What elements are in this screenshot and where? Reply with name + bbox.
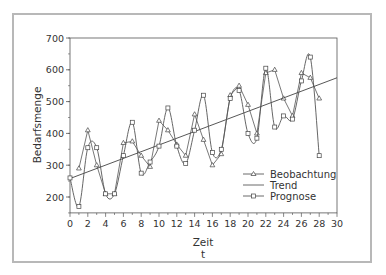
prognose-marker [228,96,232,100]
prognose-marker [95,146,99,150]
x-tick-label: 2 [85,218,91,229]
beobachtung-marker [85,128,90,132]
prognose-marker [246,131,250,135]
x-axis-subtitle: t [201,248,205,260]
prognose-marker [113,192,117,196]
beobachtung-marker [192,112,197,116]
prognose-marker [308,55,312,59]
y-tick-label: 600 [46,64,64,75]
beobachtung-marker [246,102,251,106]
prognose-marker [210,150,214,154]
legend-item-label: Beobachtung [270,169,336,180]
legend-item-label: Prognose [270,191,316,202]
prognose-marker [219,147,223,151]
prognose-marker [104,192,108,196]
square-marker-icon [252,194,256,198]
prognose-marker [148,160,152,164]
prognose-marker [121,154,125,158]
x-tick-label: 8 [138,218,144,229]
legend: BeobachtungTrendPrognose [243,169,336,202]
y-axis-title: Bedarfsmenge [31,87,43,164]
prognose-marker [273,125,277,129]
triangle-marker-icon [251,172,256,176]
x-tick-label: 14 [189,218,201,229]
x-tick-label: 6 [120,218,126,229]
prognose-marker [157,144,161,148]
prognose-marker [184,162,188,166]
prognose-marker [86,146,90,150]
prognose-marker [299,79,303,83]
prognose-marker [255,136,259,140]
x-tick-label: 28 [313,218,325,229]
x-tick-label: 16 [206,218,218,229]
prognose-marker [175,144,179,148]
chart-canvas: 2003004005006007000246810121416182022242… [0,0,386,275]
x-tick-label: 18 [224,218,236,229]
y-tick-label: 500 [46,96,64,107]
x-axis-title: Zeit [193,236,214,248]
prognose-marker [202,93,206,97]
prognose-marker [139,171,143,175]
x-tick-label: 4 [103,218,109,229]
y-tick-label: 700 [46,33,64,44]
prognose-marker [193,128,197,132]
beobachtung-marker [157,118,162,122]
x-tick-label: 0 [67,218,73,229]
beobachtung-marker [255,131,260,135]
beobachtung-marker [317,96,322,100]
beobachtung-marker [130,139,135,143]
y-tick-label: 400 [46,128,64,139]
prognose-marker [166,106,170,110]
prognose-marker [317,154,321,158]
x-tick-label: 20 [242,218,254,229]
beobachtung-marker [77,166,82,170]
x-tick-label: 10 [153,218,165,229]
beobachtung-marker [201,137,206,141]
y-tick-label: 300 [46,160,64,171]
x-tick-label: 12 [171,218,183,229]
x-tick-label: 26 [295,218,307,229]
prognose-marker [282,114,286,118]
legend-item-label: Trend [269,180,297,191]
x-tick-label: 30 [331,218,343,229]
trend-line [70,78,337,179]
prognose-marker [130,120,134,124]
prognose-marker [291,117,295,121]
x-tick-label: 24 [278,218,290,229]
beobachtung-marker [237,83,242,87]
prognose-marker [68,176,72,180]
prognose-marker [264,66,268,70]
x-tick-label: 22 [260,218,272,229]
y-tick-label: 200 [46,192,64,203]
prognose-marker [237,88,241,92]
prognose-marker [77,205,81,209]
beobachtung-marker [94,163,99,167]
beobachtung-marker [272,67,277,71]
